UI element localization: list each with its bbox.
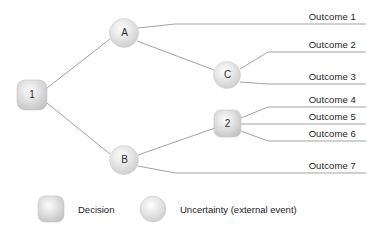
edge-nA-to-o1 [138, 24, 366, 28]
edge-nC-to-o3 [240, 82, 366, 84]
outcome-1-label: Outcome 1 [309, 11, 356, 22]
outcome-3-label: Outcome 3 [309, 71, 356, 82]
legend-decision-label: Decision [78, 204, 114, 215]
legend-decision-swatch [38, 196, 64, 222]
decision-tree-figure: 1 A C B 2 Outcome 1 Outcome 2 Outcome 3 … [0, 0, 374, 237]
node-a-shape[interactable] [110, 19, 139, 48]
edge-n1-to-nA [47, 39, 110, 88]
node-2-shape[interactable] [214, 110, 241, 137]
node-c-shape[interactable] [214, 62, 241, 89]
outcome-7-label: Outcome 7 [309, 160, 356, 171]
outcome-6-label: Outcome 6 [309, 128, 356, 139]
node-group [17, 19, 241, 175]
edge-nA-to-nC [137, 41, 214, 70]
legend-uncertainty-label: Uncertainty (external event) [180, 204, 297, 215]
outcome-5-label: Outcome 5 [309, 111, 356, 122]
edge-nC-to-o2 [240, 52, 366, 69]
legend-uncertainty-swatch [140, 196, 166, 222]
edge-nB-to-n2 [138, 128, 215, 155]
node-1-shape[interactable] [17, 80, 47, 110]
outcome-4-label: Outcome 4 [309, 94, 356, 105]
outcome-2-label: Outcome 2 [309, 39, 356, 50]
node-b-shape[interactable] [110, 146, 139, 175]
edge-n1-to-nB [47, 103, 110, 154]
